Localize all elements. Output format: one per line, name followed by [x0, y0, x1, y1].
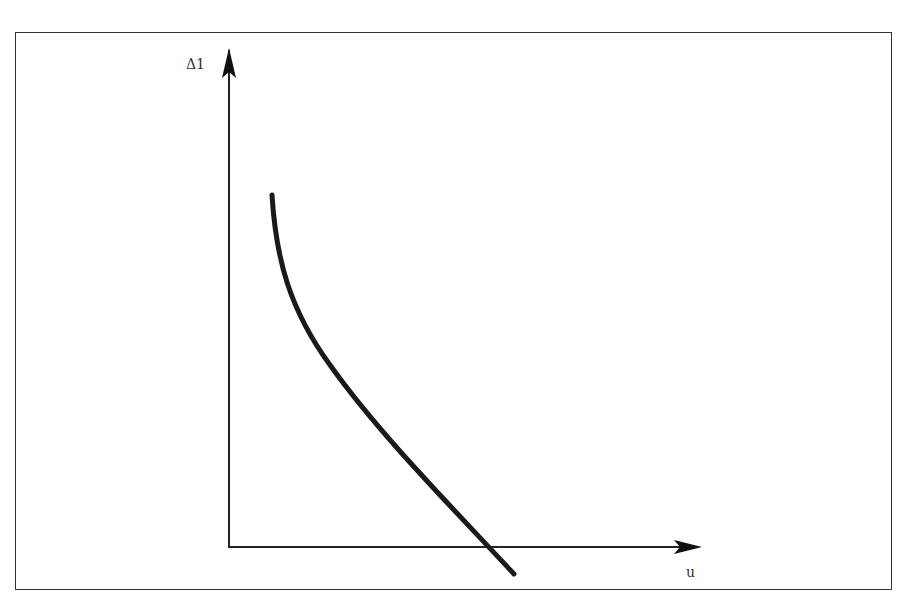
x-axis — [228, 540, 702, 554]
diagram-canvas — [0, 0, 906, 613]
y-axis — [222, 48, 236, 547]
x-axis-label: u — [686, 564, 695, 580]
delta1-curve — [272, 195, 514, 574]
y-axis-label: Δ1 — [186, 56, 205, 72]
